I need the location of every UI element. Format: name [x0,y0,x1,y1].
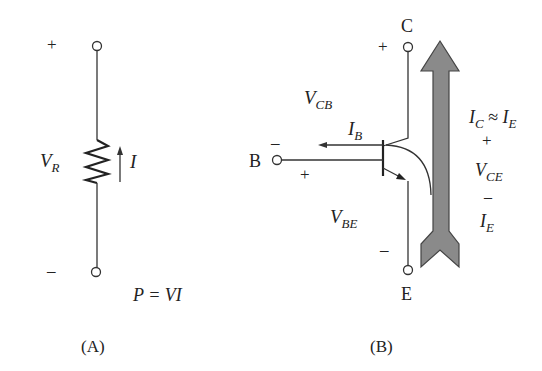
collector-current-arrow-icon [421,41,459,267]
vbe-label: VBE [330,206,358,231]
collector-terminal [404,43,413,52]
panel-a-resistor-circuit [86,42,123,277]
emitter-label: E [401,284,412,304]
minus-sign-vce: – [483,188,493,205]
plus-sign-a: + [47,35,57,54]
ie-label: IE [479,211,494,235]
panel-b-transistor-circuit [273,41,460,275]
vce-label: VCE [475,160,503,184]
circuit-diagram: + – VR I P = VI (A) C + VCB IB – B + [0,0,542,371]
resistor-icon [86,140,108,183]
base-label: B [249,151,261,171]
base-terminal [273,156,282,165]
collector-label: C [401,16,413,36]
minus-sign-base: – [270,133,280,152]
emitter-arrow-icon [396,173,406,180]
bottom-terminal [92,268,101,277]
vr-label: VR [40,150,60,175]
plus-sign-base: + [300,165,310,184]
ic-approx-ie-label: IC ≈ IE [468,107,517,131]
ib-label: IB [347,118,362,143]
top-terminal [93,42,102,51]
emitter-terminal [404,266,413,275]
current-label: I [129,151,138,172]
caption-a: (A) [81,337,105,356]
vcb-label: VCB [304,87,332,112]
power-equation: P = VI [132,285,183,305]
plus-sign-vce: + [482,131,492,150]
plus-sign-collector: + [378,37,388,56]
caption-b: (B) [370,337,393,356]
minus-sign-a: – [46,261,56,280]
minus-sign-emitter: – [379,240,389,259]
